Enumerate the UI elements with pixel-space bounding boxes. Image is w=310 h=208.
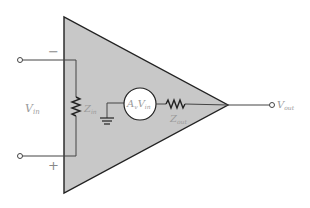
amplifier-model-diagram: − + Vin Zin AvVin Zout Vout: [0, 0, 310, 208]
minus-sign: −: [48, 44, 59, 59]
vout-label: Vout: [277, 99, 295, 111]
input-terminal-minus: [18, 58, 23, 63]
output-terminal: [270, 103, 275, 108]
vin-label: Vin: [25, 102, 40, 116]
plus-sign: +: [48, 158, 59, 173]
input-terminal-plus: [18, 154, 23, 159]
